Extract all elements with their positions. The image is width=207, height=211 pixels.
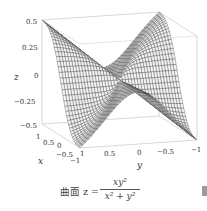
figure-caption: 曲面 z = xy² x² + y²	[0, 176, 207, 206]
z-axis-ticks: 0.5 0.25 0 −0.25 −0.5 z	[13, 18, 38, 130]
x-tick: 1	[36, 133, 40, 141]
y-axis-label: y	[136, 160, 143, 170]
y-tick: −1	[191, 146, 201, 154]
surface-plot: 0.5 0.25 0 −0.25 −0.5 z 1 0.5 0 −0.5 −1 …	[0, 0, 207, 176]
caption-prefix: 曲面 z =	[60, 184, 99, 198]
x-tick: −1	[70, 157, 80, 165]
z-tick: 0.25	[22, 44, 38, 52]
x-axis-label: x	[38, 156, 43, 166]
y-tick: 1	[80, 150, 84, 158]
z-tick: −0.25	[14, 98, 35, 106]
scroll-marker	[202, 186, 207, 196]
surface-patch	[60, 78, 64, 84]
x-tick: 0.5	[43, 139, 54, 147]
surface-mesh	[42, 12, 197, 148]
y-tick: 0.5	[104, 150, 115, 158]
y-tick: 0	[137, 149, 141, 157]
y-tick: −0.5	[157, 148, 174, 156]
x-tick: 0	[57, 142, 61, 150]
z-tick: 0	[34, 72, 38, 80]
z-tick: −0.5	[20, 122, 37, 130]
z-tick: 0.5	[26, 18, 37, 26]
y-axis-ticks: 1 0.5 0 −0.5 −1 y	[80, 146, 201, 170]
fraction-bar	[100, 189, 140, 190]
box-edge	[42, 12, 159, 20]
caption-numerator: xy²	[100, 177, 140, 188]
z-axis-label: z	[13, 72, 19, 82]
box-edge	[80, 140, 197, 148]
caption-fraction: xy² x² + y²	[100, 177, 140, 202]
caption-denominator: x² + y²	[100, 191, 140, 202]
surface-patch	[64, 101, 68, 107]
